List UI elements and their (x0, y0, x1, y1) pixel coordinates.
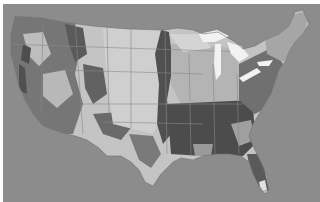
map-frame (3, 4, 320, 202)
new-england-region (263, 10, 309, 62)
us-map (3, 4, 320, 202)
gulf-coast-region (193, 144, 213, 156)
